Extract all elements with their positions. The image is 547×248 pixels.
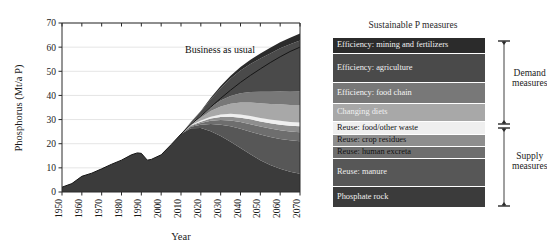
legend-band-label: Phosphate rock bbox=[337, 193, 388, 201]
demand-measures-label: Demand measures bbox=[512, 68, 547, 89]
demand-measures-line2: measures bbox=[512, 78, 547, 88]
legend-band[interactable]: Phosphate rock bbox=[333, 187, 485, 207]
demand-arrow-top bbox=[502, 42, 507, 46]
y-tick-label: 60 bbox=[47, 43, 57, 53]
y-tick-label: 10 bbox=[47, 163, 57, 173]
supply-measures-line1: Supply bbox=[512, 151, 547, 161]
legend-band[interactable]: Reuse: human excreta bbox=[333, 147, 485, 158]
supply-measures-line2: measures bbox=[512, 161, 547, 171]
x-tick-label: 2040 bbox=[233, 199, 243, 218]
x-tick-label: 2030 bbox=[213, 199, 223, 218]
legend-band-label: Changing diets bbox=[337, 108, 387, 116]
x-tick-label: 1960 bbox=[74, 199, 84, 218]
x-tick-label: 1970 bbox=[94, 199, 104, 218]
x-tick-label: 2070 bbox=[292, 199, 302, 218]
y-tick-label: 20 bbox=[47, 139, 57, 149]
x-tick-label: 2000 bbox=[153, 199, 163, 218]
x-tick-label: 2020 bbox=[193, 199, 203, 218]
legend-band-label: Reuse: manure bbox=[337, 168, 387, 176]
legend-band[interactable]: Reuse: manure bbox=[333, 159, 485, 186]
y-tick-label: 50 bbox=[47, 67, 57, 77]
legend-band[interactable]: Efficiency: mining and fertilizers bbox=[333, 38, 485, 53]
demand-measures-line1: Demand bbox=[512, 68, 547, 78]
y-tick-label: 30 bbox=[47, 115, 57, 125]
y-tick-label: 70 bbox=[47, 18, 57, 28]
legend-band-list: Efficiency: mining and fertilizersEffici… bbox=[333, 38, 485, 208]
legend-title: Sustainable P measures bbox=[338, 20, 488, 30]
supply-measures-label: Supply measures bbox=[512, 151, 547, 172]
legend-band[interactable]: Efficiency: agriculture bbox=[333, 54, 485, 82]
x-tick-label: 1980 bbox=[114, 199, 124, 218]
legend-panel: Sustainable P measures Efficiency: minin… bbox=[330, 20, 542, 210]
legend-band[interactable]: Reuse: crop residues bbox=[333, 135, 485, 146]
supply-arrow-top bbox=[502, 129, 507, 133]
area-bands bbox=[62, 34, 300, 192]
legend-band[interactable]: Efficiency: food chain bbox=[333, 83, 485, 103]
demand-arrow-bottom bbox=[502, 120, 507, 124]
legend-band-label: Reuse: human excreta bbox=[337, 148, 411, 156]
legend-band-label: Efficiency: food chain bbox=[337, 89, 412, 97]
y-tick-label: 40 bbox=[47, 91, 57, 101]
x-tick-label: 1990 bbox=[133, 199, 143, 218]
x-tick-label: 1950 bbox=[54, 199, 64, 218]
x-tick-label: 2010 bbox=[173, 199, 183, 218]
y-axis-ticks: 010203040506070 bbox=[47, 18, 63, 197]
legend-band-label: Efficiency: agriculture bbox=[337, 64, 412, 72]
x-tick-label: 2050 bbox=[252, 199, 262, 218]
legend-band[interactable]: Reuse: food/other waste bbox=[333, 122, 485, 134]
x-axis-title: Year bbox=[171, 231, 191, 242]
y-axis-title: Phosphorus (Mt/a P) bbox=[13, 64, 25, 151]
bracket-lines bbox=[490, 38, 542, 210]
legend-band-label: Efficiency: mining and fertilizers bbox=[337, 41, 448, 49]
measure-brackets: Demand measures Supply measures bbox=[490, 38, 542, 210]
business-as-usual-annotation: Business as usual bbox=[185, 44, 255, 55]
legend-band-label: Reuse: food/other waste bbox=[337, 124, 418, 132]
y-tick-label: 0 bbox=[51, 187, 56, 197]
supply-arrow-bottom bbox=[502, 202, 507, 206]
legend-band[interactable]: Changing diets bbox=[333, 104, 485, 121]
legend-band-label: Reuse: crop residues bbox=[337, 136, 406, 144]
x-tick-label: 2060 bbox=[272, 199, 282, 218]
